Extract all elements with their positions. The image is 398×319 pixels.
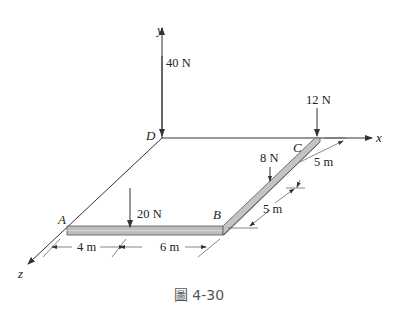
point-a-label: A — [57, 212, 66, 227]
y-axis-label: y — [155, 22, 163, 37]
x-axis-label: x — [375, 130, 382, 145]
force-40n-label: 40 N — [166, 56, 191, 70]
point-b-label: B — [213, 207, 221, 222]
force-20n: 20 N — [130, 188, 162, 227]
force-12n: 12 N — [306, 93, 331, 136]
dimension-5m-upper-label: 5 m — [314, 155, 333, 169]
force-20n-label: 20 N — [137, 207, 162, 221]
force-40n: 40 N — [162, 56, 191, 136]
dimension-ab — [43, 239, 220, 257]
pipe-assembly-diagram: y x z A B C D 40 N 12 N 8 N 20 N — [0, 0, 398, 319]
dimension-4m-label: 4 m — [77, 240, 96, 254]
point-c-label: C — [293, 140, 302, 155]
force-12n-label: 12 N — [306, 93, 331, 107]
pipe-ab — [67, 226, 223, 235]
dimension-6m-label: 6 m — [160, 240, 179, 254]
point-d-label: D — [145, 128, 156, 143]
dimension-5m-lower-label: 5 m — [263, 202, 282, 216]
z-axis-label: z — [17, 266, 23, 281]
force-8n-label: 8 N — [260, 151, 278, 165]
figure-caption: 圖 4-30 — [0, 284, 398, 304]
